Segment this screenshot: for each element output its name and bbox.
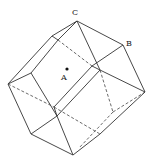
edge-right-lowerright <box>100 92 145 134</box>
edge-lowerleft-left <box>8 84 31 134</box>
hidden-edge-5 <box>113 92 145 112</box>
point-a-marker <box>65 67 68 70</box>
edge-inner1-inner2 <box>31 40 58 73</box>
edge-left-inner2 <box>8 73 31 84</box>
edge-b-right <box>123 45 145 92</box>
edge-left-upperleft <box>8 36 52 84</box>
edge-ul-inner1 <box>52 36 58 40</box>
hidden-edge-4 <box>100 70 113 112</box>
visible-edges <box>8 21 145 155</box>
hidden-edge-6 <box>79 112 113 148</box>
hidden-edge-2 <box>8 84 54 107</box>
label-b: B <box>126 39 132 48</box>
hidden-edge-1 <box>58 40 92 66</box>
edge-lowerright-bottom <box>73 134 100 155</box>
edge-center-bottom <box>57 116 73 155</box>
edge-inner2-center <box>31 73 57 116</box>
label-a: A <box>60 73 67 82</box>
hidden-edge-3 <box>54 107 100 134</box>
label-c: C <box>72 8 78 17</box>
edge-mid-right <box>100 70 145 92</box>
edge-center-lowerleft <box>31 116 57 134</box>
edge-b-mid2 <box>92 45 123 66</box>
edge-c-b <box>77 21 123 45</box>
edge-mid2-center2 <box>54 66 92 107</box>
polyhedron-diagram: C B A <box>0 0 151 161</box>
hidden-edges <box>8 40 145 148</box>
edge-bottom-lowerleft <box>31 134 73 155</box>
